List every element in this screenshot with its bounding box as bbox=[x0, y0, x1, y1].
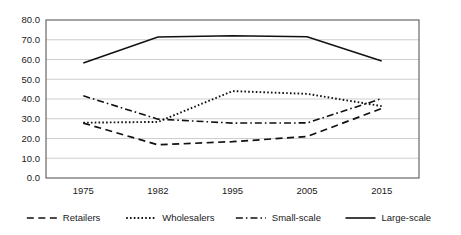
legend-label-small-scale: Small-scale bbox=[272, 212, 321, 223]
legend-item-wholesalers: Wholesalers bbox=[126, 212, 215, 223]
legend-label-retailers: Retailers bbox=[63, 212, 101, 223]
y-axis-tick-label: 0.0 bbox=[27, 172, 40, 183]
y-axis-tick-label: 60.0 bbox=[22, 54, 41, 65]
x-axis-tick-label: 2015 bbox=[371, 185, 392, 196]
line-chart: 0.010.020.030.040.050.060.070.080.019751… bbox=[0, 0, 461, 235]
x-axis-tick-label: 2005 bbox=[297, 185, 318, 196]
legend: RetailersWholesalersSmall-scaleLarge-sca… bbox=[27, 212, 431, 223]
x-axis-tick-label: 1975 bbox=[73, 185, 94, 196]
x-axis-tick-label: 1995 bbox=[222, 185, 243, 196]
y-axis-tick-label: 10.0 bbox=[22, 153, 41, 164]
legend-label-wholesalers: Wholesalers bbox=[162, 212, 215, 223]
gridlines bbox=[46, 40, 419, 159]
axis-labels: 0.010.020.030.040.050.060.070.080.019751… bbox=[22, 14, 393, 196]
legend-label-large-scale: Large-scale bbox=[382, 212, 432, 223]
y-axis-tick-label: 20.0 bbox=[22, 133, 41, 144]
y-axis-tick-label: 30.0 bbox=[22, 113, 41, 124]
y-axis-tick-label: 70.0 bbox=[22, 34, 41, 45]
legend-item-small-scale: Small-scale bbox=[236, 212, 321, 223]
legend-item-large-scale: Large-scale bbox=[346, 212, 432, 223]
legend-item-retailers: Retailers bbox=[27, 212, 101, 223]
y-axis-tick-label: 50.0 bbox=[22, 74, 41, 85]
y-axis-tick-label: 40.0 bbox=[22, 93, 41, 104]
y-axis-tick-label: 80.0 bbox=[22, 14, 41, 25]
x-axis-tick-label: 1982 bbox=[147, 185, 168, 196]
series-line-wholesalers bbox=[83, 91, 381, 123]
chart-canvas: 0.010.020.030.040.050.060.070.080.019751… bbox=[0, 0, 461, 235]
series-group bbox=[83, 36, 381, 145]
